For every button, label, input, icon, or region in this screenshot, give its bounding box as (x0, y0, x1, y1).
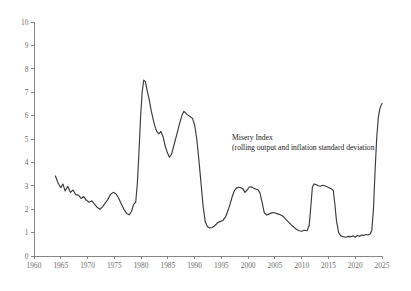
annotation-line-2: (rolling output and inflation standard d… (232, 143, 375, 152)
y-tick-label: 9 (25, 41, 29, 50)
x-tick-label: 2010 (294, 261, 309, 270)
x-tick-label: 1975 (107, 261, 122, 270)
y-tick-label: 3 (25, 182, 29, 191)
x-axis-ticks: 1960196519701975198019851990199520002005… (27, 256, 390, 270)
y-tick-label: 10 (21, 18, 29, 27)
y-tick-label: 4 (25, 158, 29, 167)
x-tick-label: 2025 (375, 261, 390, 270)
x-tick-label: 1980 (134, 261, 149, 270)
x-tick-label: 2000 (241, 261, 256, 270)
x-tick-label: 1990 (187, 261, 202, 270)
line-chart: 012345678910 196019651970197519801985199… (0, 0, 411, 291)
y-tick-label: 5 (25, 135, 29, 144)
x-tick-label: 2015 (321, 261, 336, 270)
x-tick-label: 1970 (80, 261, 95, 270)
x-tick-label: 1960 (27, 261, 42, 270)
x-tick-label: 2005 (268, 261, 283, 270)
y-tick-label: 8 (25, 65, 29, 74)
y-tick-label: 2 (25, 205, 29, 214)
x-tick-label: 2020 (348, 261, 363, 270)
y-tick-label: 6 (25, 111, 29, 120)
chart-container: 012345678910 196019651970197519801985199… (0, 0, 411, 291)
x-tick-label: 1965 (53, 261, 68, 270)
y-tick-label: 1 (25, 228, 29, 237)
y-tick-label: 7 (25, 88, 29, 97)
x-tick-label: 1995 (214, 261, 229, 270)
x-tick-label: 1985 (160, 261, 175, 270)
misery-index-line (55, 80, 382, 237)
annotation-line-1: Misery Index (232, 133, 273, 142)
y-tick-label: 0 (25, 252, 29, 261)
y-axis-ticks: 012345678910 (21, 18, 34, 261)
